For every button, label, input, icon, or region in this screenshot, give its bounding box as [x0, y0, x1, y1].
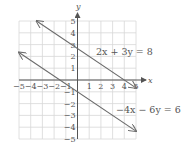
y-tick-label: −4: [64, 123, 76, 132]
y-axis-label: y: [75, 2, 81, 11]
x-tick-label: 2: [98, 82, 103, 91]
chart-canvas: −5−4−3−2−112345−5−4−3−2−112345 2x + 3y =…: [0, 0, 182, 148]
y-tick-label: −3: [64, 111, 76, 120]
y-tick-label: 2: [70, 52, 75, 61]
x-tick-label: 3: [110, 82, 115, 91]
x-tick-label: 1: [87, 82, 92, 91]
y-tick-label: −5: [64, 135, 76, 144]
y-tick-label: 5: [70, 17, 75, 26]
equation-label-2: −4x − 6y = 6: [116, 104, 181, 115]
y-tick-label: 1: [70, 64, 75, 73]
equation-label-1: 2x + 3y = 8: [96, 46, 153, 57]
x-tick-label: −5: [13, 82, 25, 91]
x-tick-label: −2: [48, 82, 60, 91]
x-tick-label: −3: [37, 82, 49, 91]
x-axis-label: x: [148, 76, 153, 85]
y-tick-label: −2: [64, 100, 76, 109]
y-tick-label: 4: [70, 29, 75, 38]
x-tick-label: 4: [122, 82, 127, 91]
x-tick-label: −4: [25, 82, 37, 91]
linear-equations-graph: −5−4−3−2−112345−5−4−3−2−112345 2x + 3y =…: [0, 0, 182, 148]
axes: [19, 13, 146, 139]
